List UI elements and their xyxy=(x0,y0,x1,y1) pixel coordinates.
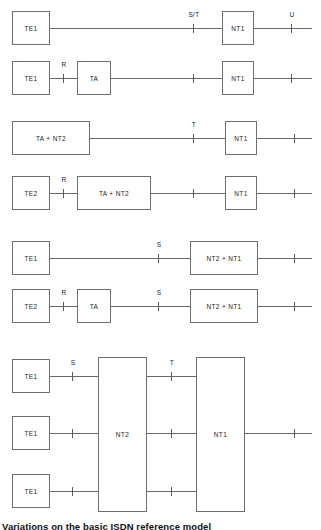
row5-interface-tick-s xyxy=(158,254,159,263)
row6-interface-tick-s xyxy=(158,302,159,311)
row5-wire-te1-to-nt2nt1 xyxy=(50,258,190,259)
row2-wire-ta-to-nt1 xyxy=(111,78,222,79)
row5-interface-tick-u xyxy=(294,254,295,263)
row1-wire-nt1-to-u xyxy=(254,28,312,29)
row7-wire-te1-2-to-nt2 xyxy=(50,433,98,434)
box-label: TE2 xyxy=(25,303,38,310)
box-label: NT1 xyxy=(231,25,244,32)
row6-nt2-nt1-box: NT2 + NT1 xyxy=(190,289,258,323)
box-label: NT1 xyxy=(234,135,247,142)
row3-wire-nt1-to-u xyxy=(257,138,312,139)
row6-interface-tick-u xyxy=(294,302,295,311)
box-label: NT1 xyxy=(214,431,227,438)
row1-interface-label-st: S/T xyxy=(184,11,204,18)
box-label: NT1 xyxy=(231,75,244,82)
row3-wire-tant2-to-nt1 xyxy=(90,138,225,139)
row1-wire-te1-to-nt1 xyxy=(50,28,222,29)
row6-te2-box: TE2 xyxy=(12,289,50,323)
row7-nt1-box: NT1 xyxy=(196,357,245,512)
box-label: TE1 xyxy=(25,488,38,495)
row5-nt2-nt1-box: NT2 + NT1 xyxy=(190,241,258,275)
box-label: TA + NT2 xyxy=(99,190,129,197)
row4-te2-box: TE2 xyxy=(12,176,50,210)
row7-wire-te1-1-to-nt2 xyxy=(50,376,98,377)
row4-interface-tick-u xyxy=(294,189,295,198)
row5-te1-box: TE1 xyxy=(12,241,50,275)
row7-nt2-box: NT2 xyxy=(98,357,147,512)
row2-interface-tick-st xyxy=(193,74,194,83)
row3-interface-tick-u xyxy=(294,134,295,143)
row7-interface-tick-s-1 xyxy=(72,372,73,381)
box-label: TA + NT2 xyxy=(36,135,66,142)
row2-ta-box: TA xyxy=(77,61,111,95)
row7-wire-nt1-to-u xyxy=(245,433,312,434)
box-label: TE1 xyxy=(25,25,38,32)
row4-ta-nt2-box: TA + NT2 xyxy=(77,176,151,210)
row7-te1-box-3: TE1 xyxy=(12,474,50,508)
box-label: NT1 xyxy=(234,190,247,197)
row7-interface-tick-s-2 xyxy=(72,429,73,438)
row6-interface-label-r: R xyxy=(54,289,74,296)
row2-interface-tick-r xyxy=(63,74,64,83)
row6-wire-ta-to-nt2nt1 xyxy=(111,306,190,307)
row6-ta-box: TA xyxy=(77,289,111,323)
row7-interface-tick-s-3 xyxy=(72,487,73,496)
row6-interface-label-s: S xyxy=(149,289,169,296)
row7-interface-tick-t-1 xyxy=(171,372,172,381)
row6-wire-nt2nt1-to-u xyxy=(258,306,312,307)
row7-te1-box-2: TE1 xyxy=(12,416,50,450)
row4-nt1-box: NT1 xyxy=(225,176,257,210)
row7-wire-te1-3-to-nt2 xyxy=(50,491,98,492)
box-label: TE1 xyxy=(25,430,38,437)
row1-interface-tick-u xyxy=(291,24,292,33)
box-label: TE1 xyxy=(25,75,38,82)
box-label: TE2 xyxy=(25,190,38,197)
box-label: TE1 xyxy=(25,255,38,262)
figure-caption: Variations on the basic ISDN reference m… xyxy=(2,521,211,530)
row4-wire-nt1-to-u xyxy=(257,193,312,194)
isdn-reference-configurations-figure: TE1 S/T NT1 U TE1 R TA NT1 TA + NT2 T NT… xyxy=(0,0,321,530)
row7-interface-label-t: T xyxy=(162,359,182,366)
row2-interface-label-r: R xyxy=(54,61,74,68)
box-label: NT2 xyxy=(116,431,129,438)
box-label: TA xyxy=(90,303,99,310)
row3-interface-label-t: T xyxy=(184,121,204,128)
row7-te1-box-1: TE1 xyxy=(12,359,50,393)
row4-interface-tick-r xyxy=(63,189,64,198)
box-label: NT2 + NT1 xyxy=(206,255,241,262)
row1-nt1-box: NT1 xyxy=(222,11,254,45)
box-label: TE1 xyxy=(25,373,38,380)
row4-interface-tick-t xyxy=(193,189,194,198)
row6-interface-tick-r xyxy=(63,302,64,311)
row4-wire-tant2-to-nt1 xyxy=(151,193,225,194)
row7-interface-tick-t-2 xyxy=(171,429,172,438)
row5-interface-label-s: S xyxy=(149,241,169,248)
row3-nt1-box: NT1 xyxy=(225,121,257,155)
row7-interface-tick-t-3 xyxy=(171,487,172,496)
box-label: TA xyxy=(90,75,99,82)
row1-interface-label-u: U xyxy=(282,11,302,18)
row1-interface-tick-st xyxy=(193,24,194,33)
row5-wire-nt2nt1-to-u xyxy=(258,258,312,259)
row1-te1-box: TE1 xyxy=(12,11,50,45)
row3-interface-tick-t xyxy=(193,134,194,143)
row2-nt1-box: NT1 xyxy=(222,61,254,95)
box-label: NT2 + NT1 xyxy=(206,303,241,310)
row2-wire-nt1-to-u xyxy=(254,78,312,79)
row7-interface-tick-u xyxy=(294,429,295,438)
row2-interface-tick-u xyxy=(291,74,292,83)
row4-interface-label-r: R xyxy=(54,176,74,183)
row7-interface-label-s: S xyxy=(63,359,83,366)
row2-te1-box: TE1 xyxy=(12,61,50,95)
row3-ta-nt2-box: TA + NT2 xyxy=(12,121,90,155)
